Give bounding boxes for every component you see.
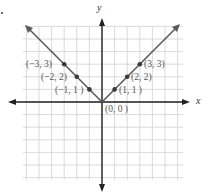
data-point bbox=[112, 87, 117, 92]
point-label-2: (2, 2) bbox=[131, 73, 152, 83]
point-label-neg1: (−1, 1 ) bbox=[55, 86, 83, 96]
data-point bbox=[75, 75, 80, 80]
x-axis-label: x bbox=[196, 96, 200, 106]
point-label-origin: (0, 0 ) bbox=[105, 105, 128, 115]
point-label-3: (3, 3) bbox=[144, 60, 165, 70]
point-label-1: (1, 1 ) bbox=[119, 86, 142, 96]
grid bbox=[23, 26, 183, 180]
absolute-value-graph bbox=[0, 0, 206, 195]
data-point bbox=[87, 87, 92, 92]
data-point bbox=[138, 62, 143, 67]
y-axis-label: y bbox=[97, 3, 101, 13]
y-axis-down-arrow-icon bbox=[99, 184, 105, 192]
x-axis-right-arrow-icon bbox=[182, 99, 190, 105]
data-point bbox=[125, 75, 130, 80]
data-point bbox=[62, 62, 67, 67]
x-axis-left-arrow-icon bbox=[8, 99, 16, 105]
point-label-neg2: (−2, 2) bbox=[41, 73, 67, 83]
y-axis-up-arrow-icon bbox=[99, 18, 105, 26]
point-label-neg3: (−3, 3) bbox=[26, 60, 52, 70]
